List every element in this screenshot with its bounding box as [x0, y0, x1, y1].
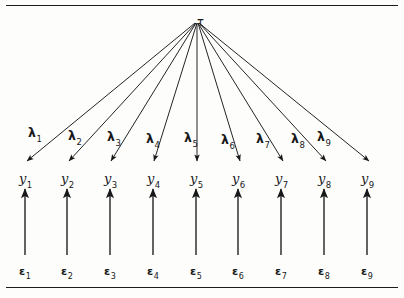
loading-label-lambda-6-subscript: 6	[229, 141, 234, 151]
loading-label-lambda-7-subscript: 7	[264, 140, 269, 150]
loading-arrow-7	[198, 23, 283, 161]
indicator-label-y-7: y7	[275, 170, 288, 186]
error-label-epsilon-6-symbol: ε	[232, 265, 238, 278]
error-label-epsilon-7-subscript: 7	[282, 272, 287, 281]
indicator-label-y-1-symbol: y	[19, 171, 26, 186]
error-label-epsilon-4-symbol: ε	[147, 265, 153, 278]
error-label-epsilon-8: ε8	[318, 262, 329, 278]
indicator-label-y-5-subscript: 5	[198, 180, 203, 190]
indicator-label-y-6-symbol: y	[232, 171, 239, 186]
error-label-epsilon-5-symbol: ε	[190, 265, 196, 278]
loading-label-lambda-2: λ2	[68, 127, 81, 143]
loading-label-lambda-3-symbol: λ	[107, 129, 115, 144]
error-label-epsilon-4: ε4	[147, 262, 158, 278]
indicator-label-y-7-symbol: y	[275, 171, 282, 186]
loading-label-lambda-8-symbol: λ	[291, 131, 299, 146]
loading-label-lambda-6-symbol: λ	[221, 132, 229, 147]
loading-label-lambda-9-subscript: 9	[325, 138, 330, 148]
error-label-epsilon-3-subscript: 3	[111, 272, 116, 281]
indicator-label-y-3: y3	[104, 170, 117, 186]
indicator-label-y-6-subscript: 6	[240, 180, 245, 190]
error-label-epsilon-9-subscript: 9	[368, 272, 373, 281]
loading-label-lambda-6: λ6	[221, 131, 234, 147]
path-diagram-figure: τλ1λ2λ3λ4λ5λ6λ7λ8λ9y1y2y3y4y5y6y7y8y9ε1ε…	[0, 0, 404, 298]
error-label-epsilon-7-symbol: ε	[275, 265, 281, 278]
indicator-label-y-1-subscript: 1	[27, 180, 32, 190]
indicator-label-y-8-symbol: y	[318, 171, 325, 186]
loading-label-lambda-7-symbol: λ	[256, 131, 264, 146]
error-label-epsilon-1: ε1	[19, 262, 30, 278]
error-label-epsilon-2-subscript: 2	[68, 272, 73, 281]
error-label-epsilon-5: ε5	[190, 262, 201, 278]
indicator-label-y-4-subscript: 4	[155, 180, 160, 190]
loading-label-lambda-1-subscript: 1	[36, 134, 41, 144]
indicator-label-y-5-symbol: y	[190, 171, 197, 186]
indicator-label-y-6: y6	[232, 170, 245, 186]
error-label-epsilon-5-subscript: 5	[197, 272, 202, 281]
indicator-label-y-8: y8	[318, 170, 331, 186]
loading-label-lambda-8-subscript: 8	[299, 140, 304, 150]
loading-label-lambda-1-symbol: λ	[28, 125, 36, 140]
loading-label-lambda-4-symbol: λ	[146, 131, 154, 146]
indicator-label-y-5: y5	[190, 170, 203, 186]
error-label-epsilon-1-subscript: 1	[26, 272, 31, 281]
latent-variable-tau-symbol: τ	[197, 15, 204, 29]
loading-label-lambda-9-symbol: λ	[317, 129, 325, 144]
error-label-epsilon-8-symbol: ε	[318, 265, 324, 278]
error-label-epsilon-2-symbol: ε	[61, 265, 67, 278]
indicator-label-y-8-subscript: 8	[326, 180, 331, 190]
error-label-epsilon-3: ε3	[104, 262, 115, 278]
indicator-label-y-4-symbol: y	[147, 171, 154, 186]
error-label-epsilon-6: ε6	[232, 262, 243, 278]
loading-label-lambda-4: λ4	[146, 130, 159, 146]
loading-label-lambda-8: λ8	[291, 130, 304, 146]
indicator-label-y-9-symbol: y	[361, 171, 368, 186]
loading-arrow-2	[69, 23, 196, 161]
indicator-label-y-7-subscript: 7	[283, 180, 288, 190]
loading-label-lambda-3: λ3	[107, 128, 120, 144]
indicator-label-y-3-symbol: y	[104, 171, 111, 186]
error-label-epsilon-1-symbol: ε	[19, 265, 25, 278]
loading-label-lambda-5-symbol: λ	[184, 130, 192, 145]
indicator-label-y-1: y1	[19, 170, 32, 186]
indicator-label-y-3-subscript: 3	[112, 180, 117, 190]
error-label-epsilon-2: ε2	[61, 262, 72, 278]
indicator-label-y-9-subscript: 9	[369, 180, 374, 190]
loading-label-lambda-7: λ7	[256, 130, 269, 146]
latent-variable-tau: τ	[197, 13, 204, 29]
indicator-label-y-2-subscript: 2	[69, 180, 74, 190]
error-label-epsilon-8-subscript: 8	[325, 272, 330, 281]
error-label-epsilon-7: ε7	[275, 262, 286, 278]
error-label-epsilon-9-symbol: ε	[361, 265, 367, 278]
error-label-epsilon-9: ε9	[361, 262, 372, 278]
diagram-arrows-layer	[0, 0, 404, 298]
loading-label-lambda-4-subscript: 4	[154, 140, 159, 150]
indicator-label-y-2-symbol: y	[61, 171, 68, 186]
loading-label-lambda-1: λ1	[28, 124, 41, 140]
error-arrow-group	[25, 189, 367, 255]
error-label-epsilon-3-symbol: ε	[104, 265, 110, 278]
loading-label-lambda-2-subscript: 2	[76, 137, 81, 147]
loading-label-lambda-2-symbol: λ	[68, 128, 76, 143]
indicator-label-y-4: y4	[147, 170, 160, 186]
error-label-epsilon-4-subscript: 4	[154, 272, 159, 281]
error-label-epsilon-6-subscript: 6	[239, 272, 244, 281]
indicator-label-y-9: y9	[361, 170, 374, 186]
loading-label-lambda-5-subscript: 5	[192, 139, 197, 149]
loading-label-lambda-9: λ9	[317, 128, 330, 144]
loading-label-lambda-3-subscript: 3	[115, 138, 120, 148]
loading-label-lambda-5: λ5	[184, 129, 197, 145]
indicator-label-y-2: y2	[61, 170, 74, 186]
